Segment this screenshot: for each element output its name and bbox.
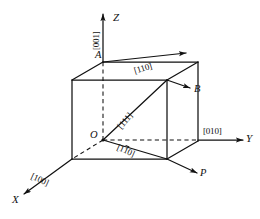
point-label-o: O (90, 130, 98, 141)
point-label-b: B (194, 84, 200, 95)
vector-line-110 (103, 53, 186, 62)
vector-line-b (167, 80, 190, 88)
axis-label-x: X (12, 194, 19, 205)
point-label-a: A (95, 50, 101, 61)
miller-label-010: [010] (203, 127, 222, 136)
coordinate-axes (24, 14, 243, 194)
axis-label-y: Y (246, 133, 252, 144)
cube-edge-bottom-right-recede (167, 141, 198, 159)
cube-hidden-edge-bottom-left-recede (72, 140, 103, 159)
origin-dot (101, 138, 104, 141)
point-label-p: P (200, 168, 206, 179)
cube-edge-top-left-recede (72, 62, 103, 80)
crystal-cube-figure: Z Y X A O B P [001] [010] [100] [110] [1… (0, 0, 260, 219)
figure-drawing-canvas (0, 0, 260, 219)
axis-label-z: Z (113, 12, 119, 23)
cube-edge-top-right-recede (167, 62, 198, 80)
vector-line-111 (103, 80, 167, 140)
miller-label-001: [001] (92, 32, 101, 51)
vector-line-p (167, 159, 197, 173)
